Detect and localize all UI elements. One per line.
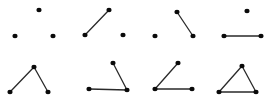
- vertex-left: [152, 87, 157, 91]
- edge-top-right: [242, 66, 256, 92]
- vertex-top: [174, 10, 179, 14]
- vertex-top: [110, 61, 115, 65]
- vertex-top: [36, 8, 41, 12]
- edge-left-top: [10, 67, 34, 92]
- vertex-left: [221, 34, 226, 38]
- vertex-right: [190, 34, 195, 38]
- graph-5: [7, 65, 50, 94]
- vertex-right: [189, 87, 194, 91]
- vertex-top: [239, 64, 244, 68]
- vertex-right: [253, 90, 258, 94]
- graph-2: [82, 8, 125, 37]
- vertex-top: [31, 65, 36, 69]
- edge-left-right: [89, 89, 127, 90]
- vertex-right: [50, 34, 55, 38]
- graph-4: [221, 9, 263, 38]
- vertex-right: [258, 34, 263, 38]
- edge-left-top: [155, 63, 178, 89]
- vertex-left: [86, 87, 91, 91]
- vertex-left: [12, 34, 17, 38]
- vertex-right: [45, 90, 50, 94]
- vertex-left: [82, 33, 87, 37]
- graph-1: [12, 8, 55, 38]
- vertex-top: [175, 61, 180, 65]
- vertex-right: [120, 33, 125, 37]
- vertex-left: [7, 90, 12, 94]
- vertex-top: [106, 8, 111, 12]
- vertex-top: [244, 9, 249, 13]
- edge-top-right: [34, 67, 48, 92]
- vertex-left: [216, 90, 221, 94]
- vertex-right: [124, 88, 129, 92]
- edge-top-right: [113, 63, 127, 90]
- edge-top-right: [177, 12, 193, 36]
- graph-6: [86, 61, 129, 92]
- edge-left-top: [85, 10, 109, 35]
- graph-diagram: [0, 0, 270, 98]
- graph-8: [216, 64, 258, 94]
- edge-left-top: [219, 66, 242, 92]
- vertex-left: [152, 34, 157, 38]
- graph-7: [152, 61, 194, 91]
- graph-3: [152, 10, 195, 38]
